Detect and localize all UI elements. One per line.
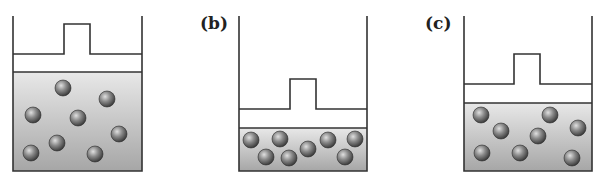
- gas-particle: [243, 132, 259, 148]
- gas-particle: [320, 132, 336, 148]
- gas-particle: [99, 91, 115, 107]
- gas-particle: [512, 145, 528, 161]
- gas-particle: [111, 126, 127, 142]
- gas-particle: [347, 131, 363, 147]
- piston: [464, 54, 592, 84]
- gas-particle: [542, 107, 558, 123]
- gas-particle: [493, 123, 509, 139]
- gas-particle: [474, 145, 490, 161]
- gas-particle: [570, 120, 586, 136]
- gas-particle: [530, 128, 546, 144]
- gas-particle: [25, 107, 41, 123]
- gas-particle: [87, 146, 103, 162]
- gas-particle: [49, 135, 65, 151]
- panel-b: (b): [200, 13, 367, 171]
- gas-particle: [70, 110, 86, 126]
- gas-particle: [258, 149, 274, 165]
- piston: [13, 24, 142, 54]
- gas-particle: [272, 131, 288, 147]
- panel-a: [13, 16, 142, 171]
- gas-particle: [337, 149, 353, 165]
- gas-particle: [564, 150, 580, 166]
- piston: [239, 79, 367, 109]
- gas-piston-diagram: (b)(c): [0, 0, 601, 183]
- gas-particle: [281, 150, 297, 166]
- panel-c: (c): [425, 13, 592, 171]
- gas-particle: [23, 145, 39, 161]
- gas-particle: [55, 80, 71, 96]
- panel-label: (c): [425, 13, 451, 33]
- gas-particle: [300, 141, 316, 157]
- gas-particle: [473, 107, 489, 123]
- panel-label: (b): [200, 13, 228, 33]
